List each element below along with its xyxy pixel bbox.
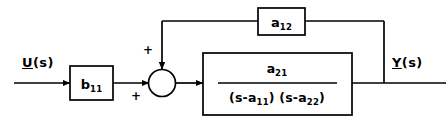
- input-vector-symbol: U: [22, 55, 33, 70]
- denominator-factor1-suffix: ): [269, 90, 275, 105]
- denominator-factor1-prefix: (s-a: [229, 90, 257, 105]
- denominator-factor2-subscript: 22: [307, 97, 319, 107]
- numerator-subscript: 21: [275, 68, 287, 78]
- summing-junction-sign-top: +: [143, 44, 153, 56]
- input-gain-block-label: b11: [81, 78, 103, 91]
- denominator-factor1-subscript: 11: [257, 97, 269, 107]
- input-argument-symbol: (s): [33, 55, 54, 70]
- transfer-function-numerator: a21: [267, 63, 288, 76]
- feedback-gain-subscript: 12: [280, 22, 292, 32]
- denominator-factor2-suffix: ): [319, 90, 325, 105]
- block-diagram-canvas: U(s) Y(s) b11 a12 a21 (s-a11) (s-a22) + …: [0, 0, 446, 120]
- feedback-gain-base: a: [271, 15, 280, 30]
- summing-junction-circle: [149, 70, 176, 97]
- feedback-gain-block-label: a12: [271, 16, 292, 29]
- summing-junction-sign-bottom: +: [131, 90, 141, 102]
- input-gain-base: b: [81, 77, 90, 92]
- transfer-function-denominator: (s-a11) (s-a22): [229, 92, 325, 105]
- input-signal-label: U(s): [22, 56, 54, 69]
- output-signal-label: Y(s): [392, 56, 423, 69]
- output-argument-symbol: (s): [402, 55, 423, 70]
- diagram-vector-layer: [0, 0, 446, 120]
- input-gain-subscript: 11: [90, 84, 102, 94]
- denominator-factor2-prefix: (s-a: [279, 90, 307, 105]
- output-vector-symbol: Y: [392, 55, 402, 70]
